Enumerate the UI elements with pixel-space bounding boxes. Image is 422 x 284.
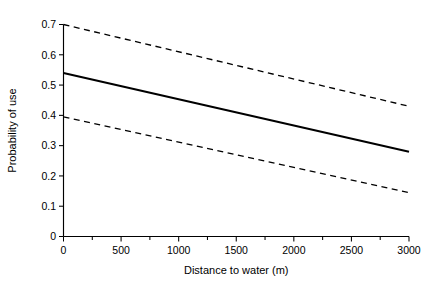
x-tick-label: 2000 [282,244,306,256]
x-tick-label: 1500 [225,244,249,256]
series-line [64,73,410,152]
y-tick-label: 0.1 [41,200,56,212]
y-tick-label: 0.4 [41,109,56,121]
y-tick-label: 0.3 [41,139,56,151]
y-axis-title: Probability of use [6,88,18,172]
y-axis-group: 00.10.20.30.40.50.60.7 Probability of us… [6,18,64,242]
series-line [64,117,410,193]
data-series-group [64,25,410,193]
y-tick-label: 0.6 [41,49,56,61]
y-tick-labels: 00.10.20.30.40.50.60.7 [41,18,56,242]
x-tick-label: 2500 [340,244,364,256]
x-tick-label: 0 [61,244,67,256]
x-axis-title: Distance to water (m) [184,264,289,276]
x-tick-labels: 050010001500200025003000 [61,244,421,256]
x-tick-marks [64,237,410,242]
figure-container: 00.10.20.30.40.50.60.7 Probability of us… [0,0,422,284]
y-tick-label: 0.7 [41,18,56,30]
y-tick-label: 0.2 [41,170,56,182]
x-tick-label: 500 [112,244,130,256]
x-tick-label: 3000 [397,244,421,256]
series-line [64,25,410,107]
x-tick-label: 1000 [167,244,191,256]
y-tick-label: 0.5 [41,79,56,91]
x-axis-group: 050010001500200025003000 Distance to wat… [61,237,421,276]
y-tick-label: 0 [50,230,56,242]
y-tick-marks [59,25,64,237]
probability-of-use-line-chart: 00.10.20.30.40.50.60.7 Probability of us… [0,0,422,284]
